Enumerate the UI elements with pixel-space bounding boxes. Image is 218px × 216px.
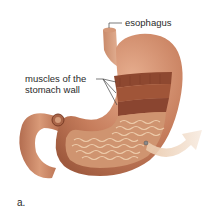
muscles-label-line1: muscles of the (25, 74, 86, 85)
muscles-label: muscles of the stomach wall (25, 74, 86, 95)
stomach-diagram: esophagus muscles of the stomach wall a. (0, 0, 218, 216)
esophagus-opening (103, 28, 116, 33)
stomach-illustration (0, 0, 218, 216)
muscles-label-line2: stomach wall (25, 85, 86, 96)
panel-label: a. (17, 198, 25, 209)
esophagus-label: esophagus (125, 18, 171, 29)
